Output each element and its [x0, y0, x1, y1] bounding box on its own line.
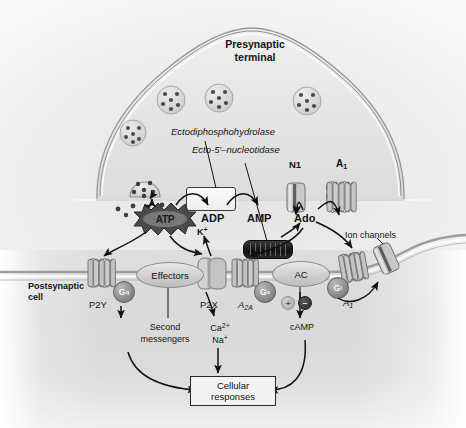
a2a-label: A2A: [238, 300, 253, 312]
postsynaptic-cell-label-line2: cell: [28, 292, 43, 302]
presynaptic-a1-label: A1: [336, 158, 347, 171]
second-messengers-label-line1: Second: [150, 322, 181, 332]
sodium-label: Na+: [212, 334, 228, 345]
cellular-responses-line2: responses: [197, 391, 269, 402]
ion-channels-label: Ion channels: [345, 230, 396, 240]
cellular-responses-box: Cellular responses: [190, 376, 276, 406]
reaction-arrows: [104, 194, 378, 390]
n1-label: N1: [289, 160, 301, 171]
calcium-symbol: Ca: [210, 323, 222, 333]
p2x-label: P2X: [200, 300, 218, 311]
camp-label: cAMP: [290, 322, 314, 332]
a2a-subscript: 2A: [244, 304, 253, 311]
arrow-vesicle-to-atp: [145, 199, 152, 207]
arrow-second-messengers-to-responses: [128, 352, 196, 390]
leader-ecto5nucleotidase: [245, 163, 267, 241]
calcium-charge: 2+: [222, 322, 230, 329]
second-messengers-label-line2: messengers: [140, 334, 189, 344]
sodium-charge: +: [224, 334, 228, 341]
p2y-label: P2Y: [89, 300, 107, 311]
potassium-charge: +: [204, 226, 208, 233]
sodium-symbol: Na: [212, 335, 224, 345]
plus-sign-badge: +: [281, 296, 295, 310]
potassium-label: K+: [197, 226, 208, 237]
arrows-layer: [0, 0, 466, 428]
figure-canvas: ATP ADP AMP Ado: [0, 0, 466, 428]
arrow-atp-to-adp: [176, 194, 208, 205]
presynaptic-terminal-title-line1: Presynaptic: [225, 39, 285, 51]
arrow-ado-to-a2a: [250, 228, 303, 256]
arrow-p2x-to-potassium: [204, 236, 211, 256]
arrow-atp-to-p2x: [170, 236, 202, 254]
arrow-ado-to-a1-pre: [318, 201, 339, 215]
postsynaptic-a1-label: A1: [343, 298, 353, 310]
minus-sign-badge: −: [298, 296, 312, 310]
calcium-label: Ca2+: [210, 322, 230, 333]
presynaptic-terminal-title-line2: terminal: [235, 52, 276, 64]
ectodiphosphohydrolase-label: Ectodiphosphohydrolase: [171, 127, 275, 138]
post-a1-subscript: 1: [349, 302, 353, 309]
ecto-5-nucleotidase-label: Ecto-5′–nucleotidase: [192, 145, 280, 156]
arrow-atp-to-p2y: [104, 232, 146, 256]
presynaptic-a1-subscript: 1: [343, 163, 347, 170]
cellular-responses-line1: Cellular: [197, 380, 269, 391]
arrow-adp-to-amp: [227, 194, 258, 205]
postsynaptic-cell-label-line1: Postsynaptic: [28, 281, 84, 291]
arrow-n1-uptake: [296, 202, 303, 214]
